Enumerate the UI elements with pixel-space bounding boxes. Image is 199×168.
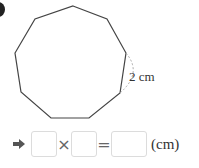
answer-box-2[interactable] [71, 131, 97, 157]
answer-box-result[interactable] [111, 131, 147, 157]
unit-label: (cm) [151, 136, 179, 153]
equation-row: × = (cm) [13, 131, 179, 157]
answer-box-1[interactable] [31, 131, 57, 157]
equals-sign: = [97, 135, 111, 154]
nonagon-figure [0, 0, 199, 130]
multiply-sign: × [57, 135, 71, 154]
side-length-label: 2 cm [129, 69, 155, 85]
nonagon-shape [15, 6, 126, 118]
right-arrow-icon [13, 139, 25, 149]
